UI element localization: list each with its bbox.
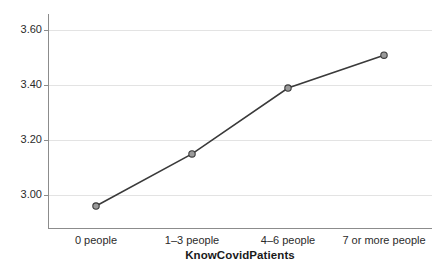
data-point — [381, 52, 387, 58]
data-point — [189, 151, 195, 157]
x-tick-label: 0 people — [75, 232, 117, 248]
x-axis-title: KnowCovidPatients — [48, 249, 432, 261]
line-chart-figure: Mean of realistic2 3.60 3.40 3.20 3.00 0… — [0, 0, 444, 268]
data-point — [285, 85, 291, 91]
series-line — [96, 55, 384, 206]
x-tick-label: 4–6 people — [261, 232, 315, 248]
x-tick-label: 1–3 people — [165, 232, 219, 248]
x-tick-label: 7 or more people — [342, 232, 425, 248]
data-series — [0, 0, 444, 268]
data-point — [93, 203, 99, 209]
series-markers — [93, 52, 387, 209]
